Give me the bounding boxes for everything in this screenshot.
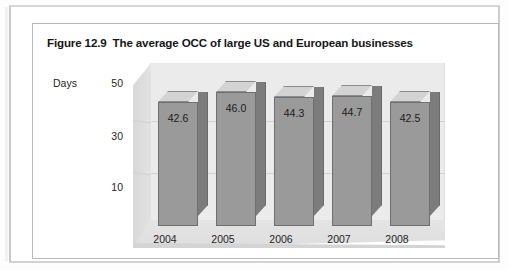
- outer-frame: Figure 12.9The average OCC of large US a…: [9, 5, 500, 263]
- bar-series: 42.646.044.344.742.5: [47, 57, 485, 253]
- bar-side-face: [256, 82, 266, 216]
- x-tick-2007: 2007: [314, 233, 364, 245]
- bar-side-face: [198, 92, 208, 216]
- figure-title-text: The average OCC of large US and European…: [113, 36, 413, 49]
- page-title: Figure 12.9The average OCC of large US a…: [47, 36, 413, 49]
- bar-top-face: [390, 91, 430, 102]
- bar-top-face: [158, 91, 198, 102]
- bar-value-label: 44.3: [274, 107, 314, 119]
- bar-value-label: 44.7: [332, 106, 372, 118]
- bar-value-label: 42.5: [390, 112, 430, 124]
- bar-value-label: 42.6: [158, 112, 198, 124]
- figure-number: Figure 12.9: [47, 36, 107, 49]
- x-tick-2006: 2006: [256, 233, 306, 245]
- x-tick-2004: 2004: [140, 233, 190, 245]
- bar-side-face: [430, 92, 440, 216]
- bar-value-label: 46.0: [216, 102, 256, 114]
- bar-side-face: [314, 87, 324, 216]
- x-tick-2005: 2005: [198, 233, 248, 245]
- x-tick-2008: 2008: [372, 233, 422, 245]
- bar-top-face: [216, 81, 256, 92]
- bar-side-face: [372, 86, 382, 216]
- bar-top-face: [332, 85, 372, 96]
- chart-plot-area: Days 50 30 10 42.646.044.344.742.5: [47, 57, 485, 253]
- chart-panel: Figure 12.9The average OCC of large US a…: [32, 23, 499, 259]
- figure-page: Figure 12.9The average OCC of large US a…: [0, 0, 509, 270]
- bar-top-face: [274, 86, 314, 97]
